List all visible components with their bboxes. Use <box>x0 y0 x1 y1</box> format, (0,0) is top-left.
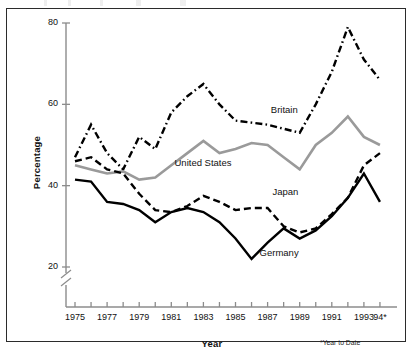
y-axis-title: Percentage <box>31 118 42 208</box>
series-label-germany: Germany <box>260 247 299 258</box>
x-tick-label: 1987 <box>251 312 285 322</box>
x-tick-label: 1989 <box>283 312 317 322</box>
scan-artifact <box>40 0 270 6</box>
series-lines <box>75 27 380 259</box>
chart-figure: Percentage Year *Year to Date 2040608019… <box>0 0 413 351</box>
x-tick-label: 1985 <box>219 312 253 322</box>
x-axis-title: Year <box>182 338 242 349</box>
chart-plot-area <box>7 9 407 343</box>
x-tick-label: 1983 <box>186 312 220 322</box>
y-tick-label: 60 <box>36 98 58 108</box>
series-line-germany <box>75 173 380 258</box>
axis-break-mark <box>61 278 71 286</box>
x-tick-label: 1981 <box>154 312 188 322</box>
y-tick-label: 80 <box>36 17 58 27</box>
footnote: *Year to Date <box>320 339 360 346</box>
series-line-britain <box>75 27 380 169</box>
y-tick-label: 20 <box>36 261 58 271</box>
series-label-britain: Britain <box>271 104 298 115</box>
chart-frame: Percentage Year *Year to Date 2040608019… <box>6 8 406 342</box>
x-tick-label: 1991 <box>315 312 349 322</box>
series-line-united-states <box>75 117 380 180</box>
x-tick-label: 1979 <box>122 312 156 322</box>
x-tick-label: 1977 <box>90 312 124 322</box>
series-label-united-states: United States <box>175 157 232 168</box>
x-tick-label: 1975 <box>58 312 92 322</box>
x-tick-label: 94* <box>363 312 397 322</box>
series-label-japan: Japan <box>272 186 298 197</box>
y-tick-label: 40 <box>36 180 58 190</box>
